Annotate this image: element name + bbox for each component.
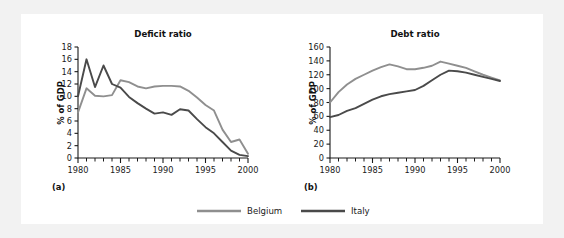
- x-tick-label: 2000: [238, 165, 259, 175]
- series-line-belgium: [330, 62, 500, 103]
- y-tick-label: 140: [308, 56, 324, 66]
- x-tick-label: 1995: [195, 165, 216, 175]
- y-tick-label: 4: [67, 128, 72, 138]
- charts-svg: Deficit ratio% of GDP0246810121416181980…: [0, 0, 564, 238]
- y-tick-label: 10: [62, 91, 72, 101]
- series-line-italy: [78, 59, 248, 156]
- legend-label-belgium: Belgium: [247, 206, 282, 216]
- y-tick-label: 80: [314, 98, 324, 108]
- panel-tag: (b): [304, 182, 318, 192]
- panel-deficit-ratio: Deficit ratio% of GDP0246810121416181980…: [52, 29, 258, 192]
- y-tick-label: 12: [62, 79, 72, 89]
- legend-label-italy: Italy: [351, 206, 370, 216]
- chart-legend: BelgiumItaly: [197, 206, 370, 216]
- panel-title: Deficit ratio: [134, 29, 192, 39]
- x-tick-label: 1995: [447, 165, 468, 175]
- y-tick-label: 0: [319, 153, 324, 163]
- y-tick-label: 2: [67, 141, 72, 151]
- x-tick-label: 1990: [405, 165, 426, 175]
- x-tick-label: 1980: [68, 165, 89, 175]
- y-tick-label: 8: [67, 104, 72, 114]
- y-tick-label: 100: [308, 84, 324, 94]
- axis-lines: [330, 47, 500, 158]
- x-tick-label: 1990: [153, 165, 174, 175]
- x-tick-label: 1985: [362, 165, 383, 175]
- y-tick-label: 40: [314, 125, 324, 135]
- y-tick-label: 18: [62, 42, 72, 52]
- x-tick-label: 1985: [110, 165, 131, 175]
- charts-area: Deficit ratio% of GDP0246810121416181980…: [0, 0, 564, 238]
- series-line-italy: [330, 71, 500, 117]
- y-tick-label: 14: [62, 67, 72, 77]
- x-tick-label: 2000: [490, 165, 511, 175]
- x-tick-label: 1980: [320, 165, 341, 175]
- figure-container: Deficit ratio% of GDP0246810121416181980…: [0, 0, 564, 238]
- y-tick-label: 160: [308, 42, 324, 52]
- y-tick-label: 16: [62, 54, 72, 64]
- y-tick-label: 60: [314, 111, 324, 121]
- y-tick-label: 6: [67, 116, 72, 126]
- y-tick-label: 20: [314, 139, 324, 149]
- panel-debt-ratio: Debt ratio% of GDP0204060801001201401601…: [304, 29, 510, 192]
- y-tick-label: 0: [67, 153, 72, 163]
- panel-title: Debt ratio: [390, 29, 439, 39]
- panel-tag: (a): [52, 182, 65, 192]
- y-tick-label: 120: [308, 70, 324, 80]
